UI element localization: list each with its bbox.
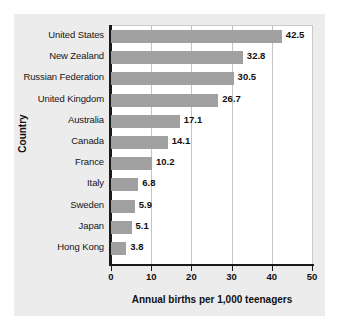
category-label: Italy [0, 176, 104, 189]
bar-value-label: 30.5 [238, 70, 257, 83]
bar-row: Canada14.1 [0, 136, 325, 149]
bar [111, 30, 282, 43]
bar-row: Japan5.1 [0, 221, 325, 234]
bar-row: United States42.5 [0, 30, 325, 43]
bar [111, 72, 234, 85]
bar [111, 94, 218, 107]
category-label: Sweden [0, 198, 104, 211]
bar-row: Russian Federation30.5 [0, 72, 325, 85]
bar-value-label: 5.9 [139, 198, 152, 211]
bar-value-label: 5.1 [136, 219, 149, 232]
y-axis-title: Country [17, 104, 28, 164]
bar-value-label: 32.8 [247, 49, 266, 62]
bar [111, 115, 180, 128]
bar [111, 157, 152, 170]
bar-row: Australia17.1 [0, 115, 325, 128]
x-axis-tick-label: 30 [217, 271, 247, 282]
bar [111, 178, 138, 191]
category-label: New Zealand [0, 49, 104, 62]
x-axis-tick-label: 50 [297, 271, 327, 282]
bar-row: New Zealand32.8 [0, 51, 325, 64]
x-axis-tick-label: 40 [257, 271, 287, 282]
bar-row: Sweden5.9 [0, 200, 325, 213]
category-label: Japan [0, 219, 104, 232]
bar-chart-figure: 01020304050 United States42.5New Zealand… [0, 0, 340, 330]
bar-row: Hong Kong3.8 [0, 242, 325, 255]
bar-value-label: 6.8 [142, 176, 155, 189]
bar-value-label: 42.5 [286, 28, 305, 41]
bar [111, 51, 243, 64]
bar [111, 136, 168, 149]
bar [111, 242, 126, 255]
bar [111, 221, 132, 234]
x-axis-title: Annual births per 1,000 teenagers [110, 294, 314, 305]
bar [111, 200, 135, 213]
x-axis-tick-label: 0 [96, 271, 126, 282]
bar-row: United Kingdom26.7 [0, 94, 325, 107]
bar-row: Italy6.8 [0, 178, 325, 191]
bar-value-label: 17.1 [184, 113, 203, 126]
x-axis-tick-label: 20 [176, 271, 206, 282]
category-label: Hong Kong [0, 240, 104, 253]
bar-value-label: 26.7 [222, 92, 241, 105]
bar-row: France10.2 [0, 157, 325, 170]
bar-row-group: United States42.5New Zealand32.8Russian … [0, 25, 325, 265]
bar-value-label: 3.8 [130, 240, 143, 253]
category-label: Russian Federation [0, 70, 104, 83]
bar-value-label: 14.1 [172, 134, 191, 147]
bar-value-label: 10.2 [156, 155, 175, 168]
x-axis-tick-label: 10 [136, 271, 166, 282]
category-label: United States [0, 28, 104, 41]
